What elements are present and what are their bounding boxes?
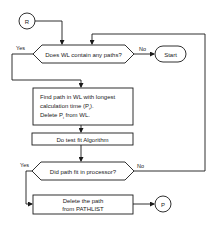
edge-entry-to-decision <box>35 21 62 44</box>
entry-connector-label: R <box>25 19 30 25</box>
decision-wl-yes-label: Yes <box>16 45 25 51</box>
test-fit-label: Do test fit Algorithm <box>56 137 108 143</box>
exit-connector-label: P <box>161 202 165 208</box>
flowchart: R Does WL contain any paths? Yes No Star… <box>0 0 216 229</box>
find-path-line-3: Delete Pi from WL. <box>40 112 90 120</box>
delete-path-line-2: from PATHLIST <box>62 206 104 212</box>
edge-yes-to-delete <box>26 171 32 204</box>
decision-wl-no-label: No <box>139 46 146 52</box>
find-path-line-2: calculation time (Pi). <box>40 103 94 111</box>
start-label: Start <box>164 52 177 58</box>
decision-fit-label: Did path fit in processor? <box>50 169 117 175</box>
decision-wl-label: Does WL contain any paths? <box>45 52 122 58</box>
decision-fit-yes-label: Yes <box>20 162 29 168</box>
edge-yes-to-find <box>12 54 81 87</box>
decision-fit-no-label: No <box>137 163 144 169</box>
delete-path-line-1: Delete the path <box>63 198 104 204</box>
find-path-line-1: Find path in WL with longest <box>40 94 115 100</box>
